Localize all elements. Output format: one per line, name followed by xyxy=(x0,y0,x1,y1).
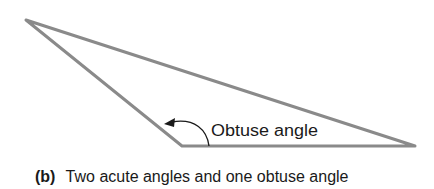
arrowhead-icon xyxy=(164,118,175,127)
triangle-diagram: Obtuse angle (b) Two acute angles and on… xyxy=(0,0,434,189)
obtuse-angle-label: Obtuse angle xyxy=(211,122,318,139)
caption-tag: (b) xyxy=(35,168,55,185)
caption-text: Two acute angles and one obtuse angle xyxy=(66,168,349,185)
caption: (b) Two acute angles and one obtuse angl… xyxy=(35,168,349,185)
